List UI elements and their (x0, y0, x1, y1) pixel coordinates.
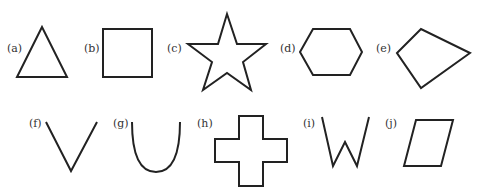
u-curve-shape (132, 122, 180, 172)
shape-d: (d) (280, 29, 362, 75)
label-i: (i) (303, 117, 315, 130)
shape-j: (j) (385, 117, 453, 166)
label-e: (e) (376, 42, 391, 55)
label-d: (d) (280, 42, 296, 55)
quadrilateral-shape (397, 29, 470, 88)
parallelogram-shape (404, 120, 453, 166)
shape-b: (b) (84, 29, 152, 77)
label-f: (f) (29, 117, 42, 130)
star-shape (188, 14, 266, 90)
triangle-shape (17, 27, 67, 77)
shape-f: (f) (29, 117, 97, 171)
cross-shape (215, 116, 287, 186)
square-shape (103, 29, 152, 77)
shape-a: (a) (7, 27, 67, 77)
w-shape (322, 117, 369, 166)
label-c: (c) (167, 42, 182, 55)
shape-h: (h) (197, 116, 287, 186)
shapes-figure: (a) (b) (c) (d) (e) (f) (g) (h) (i) (0, 0, 482, 194)
shape-g: (g) (113, 117, 180, 172)
label-j: (j) (385, 117, 397, 130)
shape-e: (e) (376, 29, 470, 88)
v-shape (46, 122, 97, 171)
label-b: (b) (84, 42, 100, 55)
label-h: (h) (197, 117, 213, 130)
shape-c: (c) (167, 14, 266, 90)
hexagon-shape (300, 29, 362, 75)
shape-i: (i) (303, 117, 369, 166)
label-a: (a) (7, 42, 22, 55)
label-g: (g) (113, 117, 129, 130)
